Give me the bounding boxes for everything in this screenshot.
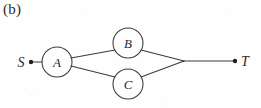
edge-c-junction [141,61,184,77]
node-label-b: B [124,36,132,51]
graph-diagram: A B C S T [0,0,261,108]
figure-panel-b: (b) A B C S T [0,0,261,108]
edge-a-c [71,66,115,77]
graph-edges [33,50,234,77]
graph-node-labels: A B C [52,36,133,92]
source-dot-s [29,60,33,64]
edge-b-junction [141,50,184,61]
sink-dot-t [233,59,237,63]
edge-a-b [71,50,115,58]
terminal-label-t: T [241,54,250,69]
node-label-a: A [52,55,61,70]
terminal-label-s: S [18,55,25,70]
node-label-c: C [124,77,133,92]
